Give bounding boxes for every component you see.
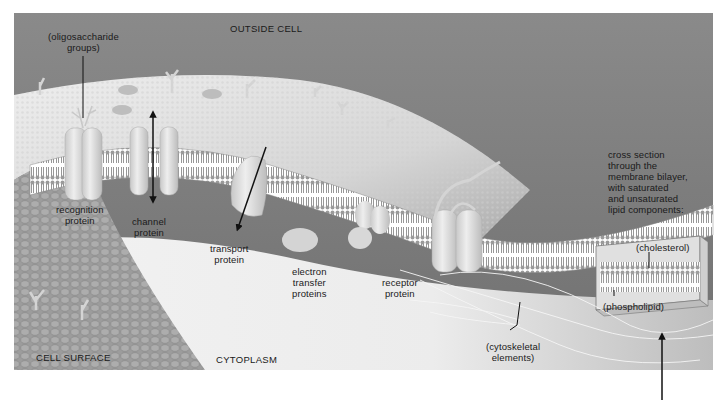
electron-transfer-proteins-label: electron transfer proteins xyxy=(292,266,327,299)
recognition-protein-label: recognition protein xyxy=(56,204,104,226)
receptor-protein-label: receptor protein xyxy=(382,277,418,299)
cholesterol-label: (cholesterol) xyxy=(636,242,690,253)
cross-section-caption: cross section through the membrane bilay… xyxy=(608,149,688,215)
outside-cell-label: OUTSIDE CELL xyxy=(230,23,302,34)
channel-protein-label: channel protein xyxy=(132,216,166,238)
cytoskeletal-elements-label: (cytoskeletal elements) xyxy=(486,341,540,363)
oligosaccharide-label: (oligosaccharide groups) xyxy=(48,31,119,53)
cell-surface-label: CELL SURFACE xyxy=(36,352,111,363)
phospholipid-label: (phospholipid) xyxy=(603,301,664,312)
transport-protein-label: transport protein xyxy=(210,243,248,265)
cytoplasm-label: CYTOPLASM xyxy=(216,354,277,365)
